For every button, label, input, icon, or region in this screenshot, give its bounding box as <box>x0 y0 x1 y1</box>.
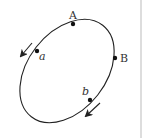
label-A: A <box>68 9 78 22</box>
label-B: B <box>120 52 128 65</box>
orbit-diagram: A B a b <box>0 0 144 138</box>
orbit-ellipse <box>1 1 134 138</box>
arrow-near-a <box>21 43 32 56</box>
point-b <box>88 98 92 102</box>
point-A <box>71 22 75 26</box>
point-B <box>113 56 117 60</box>
label-b: b <box>82 85 89 98</box>
label-a: a <box>39 50 46 63</box>
